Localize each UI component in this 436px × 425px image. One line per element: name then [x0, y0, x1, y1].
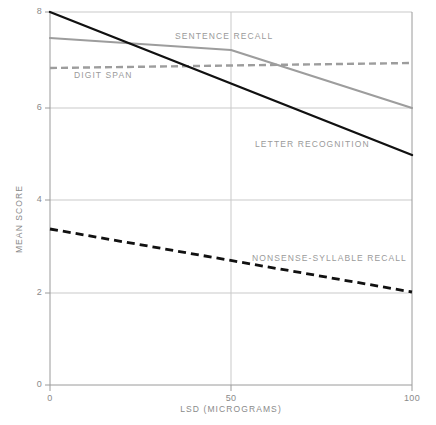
chart-plot-area — [0, 0, 436, 425]
x-tick-label-100: 100 — [397, 393, 427, 403]
chart-figure: 0 2 4 6 8 0 50 100 MEAN SCORE LSD (MICRO… — [0, 0, 436, 425]
y-tick-label-2: 2 — [22, 287, 42, 297]
series-label-letter-recognition: LETTER RECOGNITION — [255, 139, 370, 149]
x-axis-ticks — [50, 385, 412, 391]
series-label-nonsense-syllable-recall: NONSENSE-SYLLABLE RECALL — [252, 253, 407, 263]
y-tick-label-8: 8 — [22, 6, 42, 16]
series-label-sentence-recall: SENTENCE RECALL — [175, 31, 273, 41]
y-tick-label-6: 6 — [22, 102, 42, 112]
y-axis-title: MEAN SCORE — [14, 184, 24, 254]
x-tick-label-0: 0 — [35, 393, 65, 403]
x-tick-label-50: 50 — [216, 393, 246, 403]
y-axis-ticks — [45, 12, 50, 385]
series-label-digit-span: DIGIT SPAN — [74, 70, 132, 80]
y-tick-label-0: 0 — [22, 379, 42, 389]
x-axis-title: LSD (MICROGRAMS) — [151, 404, 311, 414]
y-tick-label-4: 4 — [22, 194, 42, 204]
